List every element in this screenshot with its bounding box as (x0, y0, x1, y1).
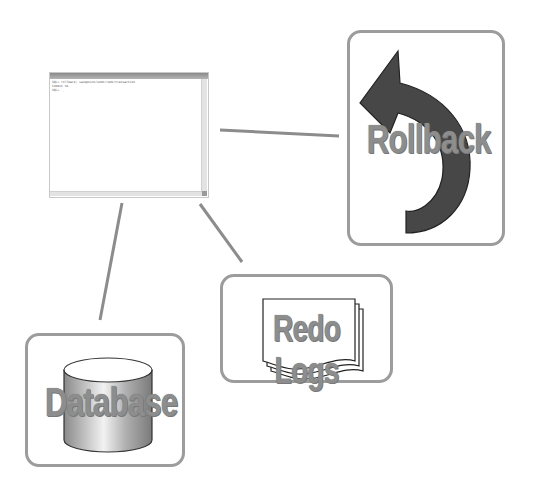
terminal-output: SQL> rollback; savepoint/undo/redo/trans… (52, 80, 200, 189)
terminal-vertical-scrollbar (201, 79, 207, 191)
terminal-line: SQL> _ (52, 88, 200, 92)
rollback-label: Rollback (367, 117, 486, 162)
connector-terminal-database (100, 203, 122, 320)
database-card: Database (25, 333, 185, 467)
redo-logs-card: Redo Logs (220, 274, 393, 383)
rollback-card: Rollback (347, 30, 505, 246)
resize-grip-icon (202, 191, 207, 196)
connector-terminal-rollback (220, 130, 339, 136)
terminal-titlebar (50, 73, 208, 79)
connector-terminal-redo-logs (200, 204, 242, 262)
redo-logs-label: Redo Logs (241, 308, 371, 392)
database-label: Database (45, 380, 165, 425)
terminal-horizontal-scrollbar (50, 191, 202, 196)
terminal-window: SQL> rollback; savepoint/undo/redo/trans… (49, 72, 209, 198)
